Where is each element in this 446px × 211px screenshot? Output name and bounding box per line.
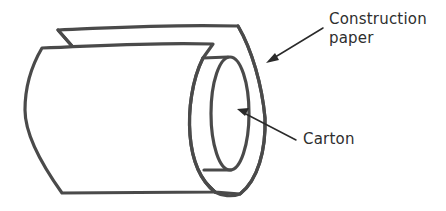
- construction-paper-label-line1: Construction: [329, 10, 427, 29]
- construction-paper-arrow: [266, 28, 323, 63]
- construction-paper-label-line2: paper: [329, 29, 427, 48]
- carton-label: Carton: [303, 130, 355, 149]
- construction-paper-label: Construction paper: [329, 10, 427, 48]
- construction-paper-front-sheet: [25, 43, 215, 193]
